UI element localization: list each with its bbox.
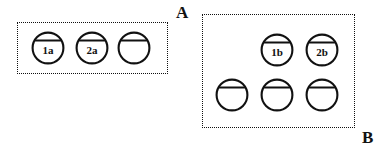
circle-token-blank: [214, 77, 250, 113]
circle-token-1a: 1a: [30, 30, 66, 66]
group-letter-b: B: [362, 129, 373, 146]
circle-token-blank: [304, 77, 340, 113]
figure-canvas: A1a2aB1b2b: [0, 0, 388, 151]
circle-token-2b: 2b: [304, 32, 340, 68]
circle-token-blank: [259, 77, 295, 113]
group-letter-a: A: [176, 4, 188, 21]
circle-token-1b: 1b: [259, 32, 295, 68]
circle-token-blank: [116, 30, 152, 66]
circle-token-2a: 2a: [74, 30, 110, 66]
